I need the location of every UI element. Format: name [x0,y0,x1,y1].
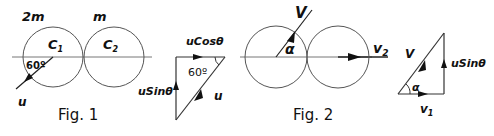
fig2-caption: Fig. 2 [293,106,333,124]
v2-label: v2 [373,40,388,58]
triangle-angle-label: 60º [188,66,207,79]
figure-2: V α v2 Fig. 2 [240,4,388,124]
usin-label: uSinθ [138,85,173,98]
figure-1: 2m m C1 C2 60º u Fig. 1 [12,9,152,124]
usin-arrowhead-icon [173,81,179,90]
figure-1-vector-triangle: uCosθ uSinθ 60º u [138,35,225,120]
angle-60-label: 60º [26,60,46,71]
v1-label: v1 [420,102,433,118]
triangle-v-label: V [405,47,416,61]
fig1-caption: Fig. 1 [58,106,98,124]
triangle-usin-label: uSinθ [451,57,486,70]
collision-diagram: 2m m C1 C2 60º u Fig. 1 uCosθ uSinθ 60º … [0,0,494,136]
angle-arc [215,57,219,65]
ucos-arrowhead-icon [193,54,203,60]
c1-label: C1 [48,37,63,54]
v2-arrowhead-icon [348,53,361,61]
mass-m-label: m [93,9,107,24]
c2-label: C2 [103,37,119,54]
alpha-arc [406,84,410,94]
alpha-label: α [285,41,295,57]
triangle-alpha-label: α [412,81,420,94]
triangle-u-label: u [214,89,223,103]
velocity-v-label: V [295,4,308,22]
mass-2m-label: 2m [22,9,45,24]
v-hypotenuse [398,33,444,94]
velocity-u-arrowhead-icon [24,73,33,82]
figure-2-vector-triangle: V α uSinθ v1 [398,33,486,118]
velocity-u-label: u [18,95,27,109]
ucos-label: uCosθ [186,35,224,48]
usin-arrowhead-icon-2 [441,59,447,68]
